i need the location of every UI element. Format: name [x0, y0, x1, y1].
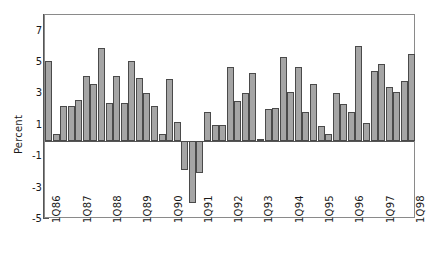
bar-series: [45, 15, 414, 217]
x-axis-tick-label: 1Q91: [203, 195, 214, 223]
bar: [53, 134, 60, 140]
y-axis-tick-label: 7: [36, 24, 42, 35]
x-axis-tick-label: 1Q95: [324, 195, 335, 223]
y-axis-tick-label: 3: [36, 87, 42, 98]
bar: [371, 71, 378, 140]
bar: [355, 46, 362, 140]
bar: [302, 112, 309, 140]
bar: [181, 141, 188, 171]
bar: [310, 84, 317, 140]
x-axis-tick-label: 1Q86: [51, 195, 62, 223]
bar: [75, 100, 82, 141]
bar: [166, 79, 173, 140]
bar: [257, 139, 264, 141]
bar: [378, 64, 385, 141]
x-axis-tick-label: 1Q93: [263, 195, 274, 223]
y-axis-tick-labels: 7531-1-3-5: [20, 0, 44, 267]
y-axis-title: Percent: [0, 78, 18, 158]
bar: [227, 67, 234, 141]
x-axis-tick-label: 1Q98: [415, 195, 426, 223]
x-axis-tick-label: 1Q90: [173, 195, 184, 223]
bar: [204, 112, 211, 140]
bar: [212, 125, 219, 141]
x-axis-tick-label: 1Q92: [233, 195, 244, 223]
bar-chart: Percent 7531-1-3-5 1Q861Q871Q881Q891Q901…: [0, 0, 426, 267]
bar: [159, 134, 166, 140]
bar: [325, 134, 332, 140]
bar: [90, 84, 97, 140]
bar: [128, 61, 135, 141]
x-axis-tick-label: 1Q96: [354, 195, 365, 223]
bar: [340, 104, 347, 140]
bar: [83, 76, 90, 140]
x-axis-tick-label: 1Q94: [294, 195, 305, 223]
bar: [408, 54, 415, 140]
y-axis-tick-label: -1: [32, 150, 42, 161]
bar: [280, 57, 287, 140]
bar: [272, 108, 279, 141]
bar: [401, 81, 408, 141]
bar: [45, 61, 52, 141]
y-axis-tick-label: -5: [32, 213, 42, 224]
bar: [363, 123, 370, 140]
bar: [287, 92, 294, 141]
bar: [265, 109, 272, 140]
bar: [106, 103, 113, 141]
bar: [333, 93, 340, 140]
bar: [98, 48, 105, 141]
bar: [113, 76, 120, 140]
bar: [219, 125, 226, 141]
x-axis-tick-label: 1Q88: [112, 195, 123, 223]
bar: [189, 141, 196, 204]
plot-area: [44, 14, 415, 218]
bar: [143, 93, 150, 140]
y-axis-tick-label: 5: [36, 56, 42, 67]
y-axis-tick-label: -3: [32, 181, 42, 192]
bar: [174, 122, 181, 141]
bar: [121, 103, 128, 141]
x-axis-tick-label: 1Q97: [385, 195, 396, 223]
bar: [386, 87, 393, 140]
bar: [242, 93, 249, 140]
bar: [318, 126, 325, 140]
x-axis-tick-label: 1Q87: [82, 195, 93, 223]
y-axis-tick-label: 1: [36, 118, 42, 129]
bar: [136, 78, 143, 141]
x-axis-tick-label: 1Q89: [142, 195, 153, 223]
bar: [151, 106, 158, 141]
bar: [234, 101, 241, 140]
bar: [249, 73, 256, 140]
bar: [68, 106, 75, 141]
bar: [348, 112, 355, 140]
x-axis-tick-labels: 1Q861Q871Q881Q891Q901Q911Q921Q931Q941Q95…: [44, 219, 415, 267]
bar: [196, 141, 203, 174]
bar: [393, 92, 400, 141]
bar: [295, 67, 302, 141]
bar: [60, 106, 67, 141]
